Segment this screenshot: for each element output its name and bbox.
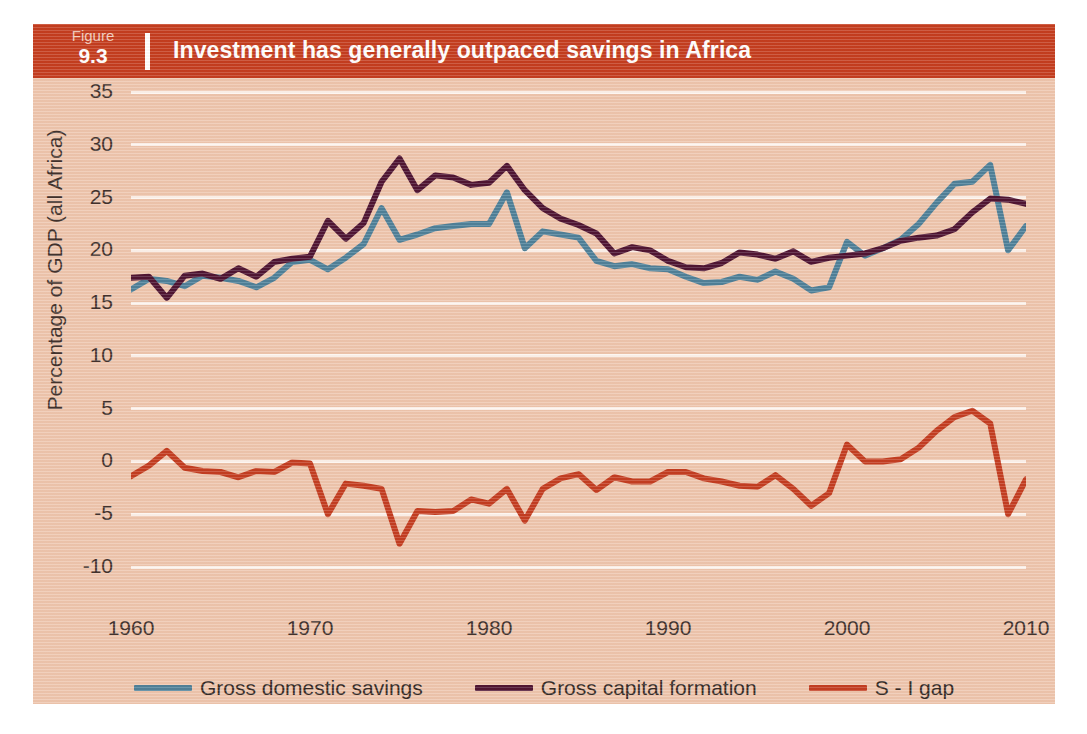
x-tick-label: 1990	[623, 616, 713, 640]
y-tick-label: 20	[55, 237, 113, 261]
x-tick-label: 2010	[981, 616, 1055, 640]
x-tick-label: 1980	[444, 616, 534, 640]
figure-label-word: Figure	[55, 28, 131, 44]
y-tick-label: -5	[55, 501, 113, 525]
legend-label: S - I gap	[875, 676, 954, 700]
series-line	[131, 159, 1026, 298]
page-title: Investment has generally outpaced saving…	[173, 37, 751, 64]
legend-label: Gross domestic savings	[200, 676, 423, 700]
legend-swatch	[809, 685, 867, 691]
legend-item[interactable]: Gross capital formation	[475, 676, 757, 700]
y-tick-label: 0	[55, 448, 113, 472]
figure-card: Figure 9.3 Investment has generally outp…	[33, 24, 1055, 704]
figure-header-bar: Figure 9.3 Investment has generally outp…	[33, 24, 1055, 78]
y-tick-label: 5	[55, 396, 113, 420]
header-divider	[145, 33, 150, 70]
legend-item[interactable]: S - I gap	[809, 676, 954, 700]
y-axis-tick-labels: 35302520151050-5-10	[55, 78, 113, 704]
y-tick-label: 10	[55, 343, 113, 367]
legend-item[interactable]: Gross domestic savings	[134, 676, 423, 700]
x-tick-label: 1960	[86, 616, 176, 640]
legend-swatch	[134, 685, 192, 691]
legend-label: Gross capital formation	[541, 676, 757, 700]
figure-number: 9.3	[55, 45, 131, 67]
plot-wrapper: Percentage of GDP (all Africa) 353025201…	[33, 78, 1055, 704]
y-tick-label: 35	[55, 79, 113, 103]
y-tick-label: 30	[55, 132, 113, 156]
plot-area	[131, 92, 1026, 567]
y-tick-label: -10	[55, 554, 113, 578]
y-tick-label: 15	[55, 290, 113, 314]
chart-svg	[131, 92, 1026, 567]
legend-swatch	[475, 685, 533, 691]
series-line	[131, 411, 1026, 544]
y-tick-label: 25	[55, 185, 113, 209]
x-tick-label: 1970	[265, 616, 355, 640]
x-tick-label: 2000	[802, 616, 892, 640]
figure-number-block: Figure 9.3	[55, 28, 131, 67]
chart-legend: Gross domestic savingsGross capital form…	[33, 673, 1055, 703]
